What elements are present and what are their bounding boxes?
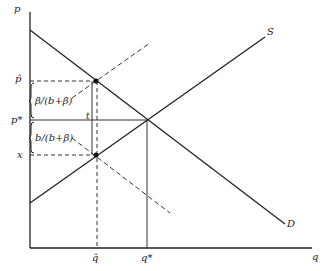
x-axis-label: q bbox=[312, 252, 318, 262]
supply-label: S bbox=[267, 27, 274, 37]
consumer-price-point bbox=[94, 79, 99, 84]
p-star-label: p* bbox=[11, 115, 22, 125]
lower-share-label: b/(b+β) bbox=[35, 133, 73, 143]
x-label: x bbox=[17, 150, 23, 160]
q-hat-label: q̂ bbox=[92, 253, 98, 263]
demand-curve bbox=[30, 30, 285, 224]
p-hat-label: p̂ bbox=[15, 74, 21, 84]
upper-share-label: β/(b+β) bbox=[35, 96, 73, 106]
q-star-label: q* bbox=[141, 253, 152, 263]
producer-price-point bbox=[94, 153, 99, 158]
tax-label: t bbox=[86, 112, 90, 121]
shifted-demand-dashed bbox=[72, 138, 170, 213]
supply-demand-diagram: p q S D p̂ p* x q̂ q* β/(b+β) b/(b+β) t bbox=[0, 0, 325, 271]
y-axis-label: p bbox=[14, 4, 20, 14]
demand-label: D bbox=[287, 219, 295, 229]
